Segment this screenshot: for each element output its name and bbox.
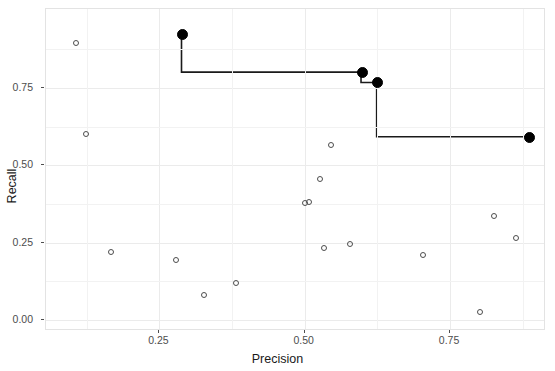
y-tick-mark [41,242,44,243]
horizontal-gridline [46,127,544,128]
x-tick-mark [304,330,305,333]
x-tick-label-1: 0.50 [294,334,314,346]
horizontal-gridline [46,165,544,166]
horizontal-gridline [46,49,544,50]
y-tick-mark [41,87,44,88]
y-tick-mark [41,164,44,165]
horizontal-gridline [46,281,544,282]
y-axis-title: Recall [5,156,19,216]
y-tick-mark [41,319,44,320]
horizontal-gridline [46,243,544,244]
data-point [108,249,114,255]
y-tick-label-0: 0.75 [13,81,33,93]
x-tick-mark [449,330,450,333]
frontier-point [177,29,188,40]
horizontal-gridline [46,204,544,205]
data-point [306,199,312,205]
x-tick-label-2: 0.75 [439,334,459,346]
scatter-plot-figure: 0.75 0.50 0.25 0.00 0.25 0.50 0.75 Preci… [0,0,555,371]
y-tick-label-2: 0.25 [13,236,33,248]
horizontal-gridline [46,88,544,89]
y-tick-label-3: 0.00 [13,313,33,325]
data-point [83,131,89,137]
x-tick-label-0: 0.25 [148,334,168,346]
frontier-point [357,67,368,78]
data-point [173,257,179,263]
x-axis-title: Precision [0,352,555,366]
data-point [201,292,207,298]
plot-panel [45,8,545,330]
x-tick-mark [158,330,159,333]
horizontal-gridline [46,320,544,321]
